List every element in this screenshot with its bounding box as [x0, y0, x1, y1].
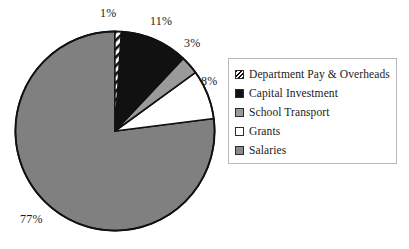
pie-label-1-percent: 1%: [100, 6, 116, 21]
legend-item-school-transport: School Transport: [235, 103, 391, 122]
legend-item-capital-investment: Capital Investment: [235, 84, 391, 103]
legend-label-capital-investment: Capital Investment: [249, 88, 338, 100]
pie-label-11-percent: 11%: [150, 14, 172, 29]
legend-item-salaries: Salaries: [235, 141, 391, 160]
legend-swatch-black-icon: [235, 89, 244, 98]
legend-swatch-white-icon: [235, 127, 244, 136]
pie-chart: [14, 30, 216, 232]
legend-item-department-pay-overheads: Department Pay & Overheads: [235, 65, 391, 84]
legend-label-department-pay-overheads: Department Pay & Overheads: [249, 69, 390, 81]
legend-item-grants: Grants: [235, 122, 391, 141]
pie-label-3-percent: 3%: [184, 36, 200, 51]
pie-chart-svg: [14, 30, 216, 232]
legend-label-salaries: Salaries: [249, 145, 286, 157]
pie-label-8-percent: 8%: [201, 74, 217, 89]
legend-swatch-gray-icon: [235, 108, 244, 117]
legend-label-school-transport: School Transport: [249, 107, 330, 119]
chart-legend: Department Pay & Overheads Capital Inves…: [228, 58, 397, 164]
chart-canvas: 1% 11% 3% 8% 77% Department Pay & Overhe…: [0, 0, 409, 249]
pie-label-77-percent: 77%: [20, 212, 43, 227]
legend-swatch-hatch-icon: [235, 70, 244, 79]
legend-label-grants: Grants: [249, 126, 280, 138]
legend-swatch-gray2-icon: [235, 146, 244, 155]
